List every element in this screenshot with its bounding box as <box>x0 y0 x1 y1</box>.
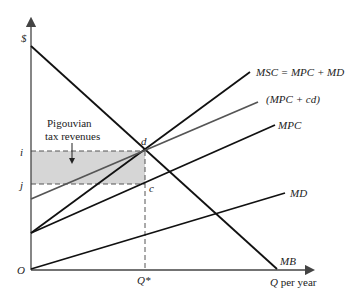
annotation-line2: tax revenues <box>45 130 100 142</box>
tax-revenue-area <box>31 151 145 184</box>
x-axis-label: Q per year <box>270 276 317 288</box>
msc-label: MSC = MPC + MD <box>255 66 344 78</box>
md-label: MD <box>289 187 307 199</box>
point-d-label: d <box>141 135 147 147</box>
price-i-label: i <box>20 146 23 158</box>
mpc-label: MPC <box>277 119 302 131</box>
price-j-label: j <box>18 179 23 191</box>
x-axis-label-rest: per year <box>278 276 317 288</box>
mpc-cd-label: (MPC + cd) <box>266 93 320 106</box>
annotation-line1: Pigouvian <box>47 117 92 129</box>
point-c-label: c <box>149 182 154 194</box>
pigouvian-tax-diagram: $ O i j Q* d c Pigouvian tax revenues MS… <box>0 0 351 305</box>
mb-label: MB <box>279 255 296 267</box>
origin-label: O <box>17 264 25 276</box>
x-axis-label-q: Q <box>270 276 278 288</box>
q-star-label: Q* <box>137 274 151 286</box>
y-axis-label: $ <box>21 32 27 44</box>
